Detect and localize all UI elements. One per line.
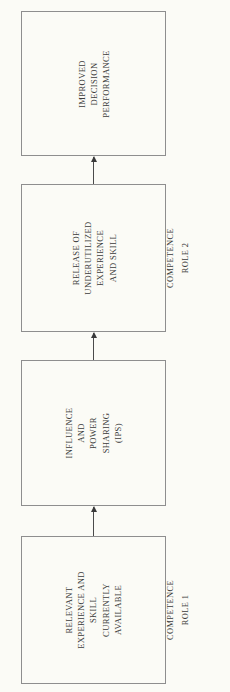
flow-node-label: RELEASE OF UNDERUTILIZED EXPERIENCE AND … [69,221,118,294]
flow-node-release-of-underutilized-experience-and-skill: RELEASE OF UNDERUTILIZED EXPERIENCE AND … [21,184,166,332]
caption-line: ROLE 2 [179,218,194,298]
flow-node-label: INFLUENCE AND POWER SHARING (IPS) [63,408,124,459]
caption-competence-role-2: COMPETENCE ROLE 2 [164,218,230,298]
flow-node-line: DECISION [87,50,99,117]
caption-line: ROLE 1 [179,570,194,650]
flow-node-label: IMPROVED DECISION PERFORMANCE [75,50,112,117]
flow-node-line: SHARING [100,408,112,459]
arrow-ips-to-release [93,333,94,360]
flow-node-line: RELEVANT [63,571,75,649]
flow-node-line: POWER [87,408,99,459]
flow-node-line: AND [75,408,87,459]
caption-line: COMPETENCE [164,218,179,298]
flow-node-influence-and-power-sharing: INFLUENCE AND POWER SHARING (IPS) [21,360,166,506]
flow-node-line: RELEASE OF [69,221,81,294]
flow-node-line: PERFORMANCE [100,50,112,117]
flow-node-line: IMPROVED [75,50,87,117]
flow-node-line: INFLUENCE [63,408,75,459]
caption-line: COMPETENCE [164,570,179,650]
flow-node-line: AND SKILL [106,221,118,294]
flow-node-relevant-experience-and-skill-currently-available: RELEVANT EXPERIENCE AND SKILL CURRENTLY … [21,536,166,684]
diagram-canvas: IMPROVED DECISION PERFORMANCE RELEASE OF… [0,0,230,692]
flow-node-improved-decision-performance: IMPROVED DECISION PERFORMANCE [21,11,166,156]
flow-node-line: (IPS) [112,408,124,459]
flow-node-line: EXPERIENCE [94,221,106,294]
flow-node-line: SKILL [87,571,99,649]
caption-competence-role-1: COMPETENCE ROLE 1 [164,570,230,650]
flow-node-line: AVAILABLE [112,571,124,649]
flow-node-label: RELEVANT EXPERIENCE AND SKILL CURRENTLY … [63,571,124,649]
arrow-role1-to-ips [93,507,94,536]
flow-node-line: UNDERUTILIZED [81,221,93,294]
flow-node-line: EXPERIENCE AND [75,571,87,649]
arrow-release-to-improved [93,157,94,184]
flow-node-line: CURRENTLY [100,571,112,649]
